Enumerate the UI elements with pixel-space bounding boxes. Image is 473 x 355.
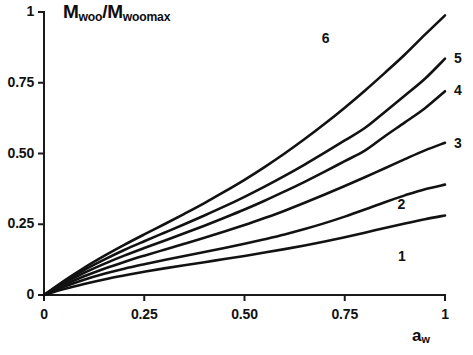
x-tick-label-0: 0 [14,306,74,322]
y-axis-title: Mwoo/Mwoomax [63,1,170,23]
x-tick-label-4: 1 [415,306,473,322]
data-curves [44,15,445,295]
x-tick-label-1: 0.25 [114,306,174,322]
curve-label-2: 2 [397,196,405,212]
y-tick-label-1: 0.25 [0,215,34,231]
axis-spines [44,12,445,295]
y-tick-label-0: 0 [0,286,34,302]
curve-label-3: 3 [454,135,462,151]
curve-label-4: 4 [454,82,462,98]
chart-figure: Mwoo/Mwoomax aw 00.250.500.751 00.250.50… [0,0,473,355]
curve-6 [44,15,445,295]
y-tick-label-2: 0.50 [0,145,34,161]
y-axis-title-m1: M [63,1,79,22]
y-tick-label-3: 0.75 [0,74,34,90]
curve-label-1: 1 [398,248,406,264]
axes [44,12,445,295]
y-axis-title-m2: M [107,1,123,22]
curve-4 [44,91,445,295]
x-axis-title-sub: w [421,333,429,345]
curve-label-6: 6 [322,30,330,46]
x-tick-label-2: 0.50 [215,306,275,322]
curve-3 [44,143,445,295]
x-tick-label-3: 0.75 [315,306,375,322]
x-axis-title: aw [412,326,430,346]
plot-area [0,0,473,355]
y-tick-label-4: 1 [0,3,34,19]
curve-label-5: 5 [454,50,462,66]
curve-5 [44,59,445,295]
y-axis-title-sub1: woo [79,10,103,24]
y-axis-title-sub2: woomax [123,10,170,24]
